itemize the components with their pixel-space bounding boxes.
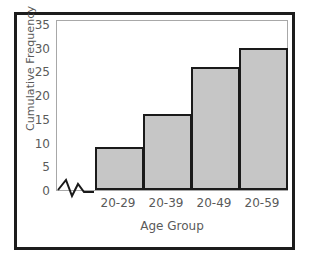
plot-area <box>56 20 288 191</box>
y-tick-label: 0 <box>24 185 50 197</box>
chart-figure: Cumulative Frequency 05101520253035 20-2… <box>0 0 312 265</box>
bars-layer <box>57 21 287 190</box>
bar <box>191 67 240 191</box>
bar <box>143 114 192 190</box>
x-axis-title: Age Group <box>56 219 288 233</box>
x-axis-tick-labels: 20-2920-3920-4920-59 <box>56 196 288 216</box>
bar <box>239 48 288 191</box>
y-axis-tick-labels: 05101520253035 <box>24 18 50 198</box>
bar <box>95 147 144 190</box>
y-tick-label: 10 <box>24 138 50 150</box>
y-tick-label: 5 <box>24 161 50 173</box>
x-tick-label: 20-29 <box>94 196 142 210</box>
y-tick-label: 20 <box>24 90 50 102</box>
y-tick-label: 35 <box>24 19 50 31</box>
x-tick-label: 20-49 <box>190 196 238 210</box>
x-tick-label: 20-59 <box>238 196 286 210</box>
y-tick-label: 25 <box>24 66 50 78</box>
y-tick-label: 30 <box>24 43 50 55</box>
x-tick-label: 20-39 <box>142 196 190 210</box>
y-tick-label: 15 <box>24 114 50 126</box>
